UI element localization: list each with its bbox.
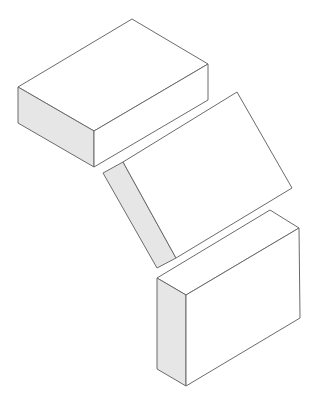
isometric-blocks-diagram bbox=[0, 0, 316, 413]
diagram-canvas bbox=[0, 0, 316, 413]
bottom-box-left-side-face bbox=[157, 278, 186, 386]
